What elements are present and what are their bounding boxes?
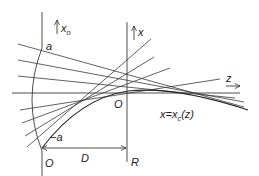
label-axis-x: x xyxy=(137,26,144,38)
label-axis-z: z xyxy=(225,72,232,84)
label-axis-x0: xo xyxy=(60,22,71,37)
caustic-diagram: a −a O O D R x xo z x=xc(z) xyxy=(0,0,259,176)
caustic-curve xyxy=(42,90,248,148)
ray-6 xyxy=(25,57,154,136)
label-minus-a: −a xyxy=(50,131,63,143)
label-distance-D: D xyxy=(81,152,89,164)
ray-5 xyxy=(22,68,170,123)
label-origin-left: O xyxy=(45,157,54,169)
ray-3 xyxy=(18,76,235,98)
label-origin-right: O xyxy=(114,98,123,110)
label-a-top: a xyxy=(46,40,52,52)
ray-1 xyxy=(18,44,244,107)
label-radius-R: R xyxy=(131,156,139,168)
label-caustic-equation: x=xc(z) xyxy=(159,108,194,123)
